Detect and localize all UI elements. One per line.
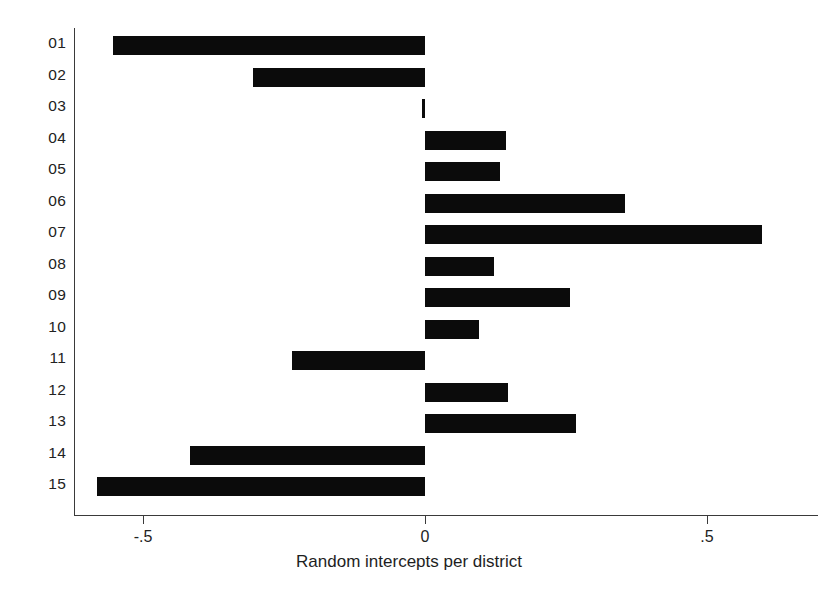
bar-12 — [425, 383, 508, 402]
random-intercepts-bar-chart: 010203040506070809101112131415 Random in… — [0, 0, 818, 601]
x-tick-mark-2 — [707, 516, 708, 524]
bars-layer — [0, 28, 818, 510]
bar-01 — [113, 36, 425, 55]
bar-02 — [253, 68, 425, 87]
bar-06 — [425, 194, 625, 213]
bar-08 — [425, 257, 494, 276]
bar-15 — [97, 477, 425, 496]
x-axis-title: Random intercepts per district — [0, 552, 818, 572]
bar-07 — [425, 225, 762, 244]
bar-09 — [425, 288, 570, 307]
x-tick-label-2: .5 — [667, 527, 747, 546]
bar-14 — [190, 446, 425, 465]
bar-03 — [422, 99, 425, 118]
x-tick-mark-1 — [425, 516, 426, 524]
bar-13 — [425, 414, 576, 433]
bar-11 — [292, 351, 425, 370]
bar-05 — [425, 162, 500, 181]
bar-10 — [425, 320, 479, 339]
x-tick-label-1: 0 — [385, 527, 465, 546]
x-tick-label-0: -.5 — [103, 527, 183, 546]
x-tick-mark-0 — [143, 516, 144, 524]
bar-04 — [425, 131, 506, 150]
